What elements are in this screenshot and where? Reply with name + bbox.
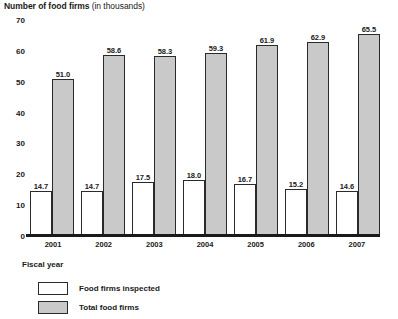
bar-value-label: 65.5 <box>362 25 377 34</box>
x-axis-line <box>26 234 380 237</box>
bar-inspected-2002: 14.7 <box>81 191 103 236</box>
x-axis-label-2001: 2001 <box>30 240 76 252</box>
bar-inspected-2006: 15.2 <box>285 189 307 236</box>
bar-value-label: 18.0 <box>187 171 202 180</box>
x-axis-label-2005: 2005 <box>233 240 279 252</box>
x-axis-label-2002: 2002 <box>81 240 127 252</box>
legend-swatch-total <box>38 301 68 314</box>
bar-value-label: 14.6 <box>340 182 355 191</box>
bar-value-label: 58.6 <box>107 46 122 55</box>
y-axis-tick-60: 60 <box>16 46 25 55</box>
bar-total-2004: 59.3 <box>205 53 227 236</box>
bar-chart: Number of food firms (in thousands) 7060… <box>0 0 398 319</box>
bar-group-2005: 16.761.9 <box>234 20 278 236</box>
x-axis-label-2004: 2004 <box>182 240 228 252</box>
bar-value-label: 14.7 <box>34 182 49 191</box>
bar-group-2001: 14.751.0 <box>30 20 74 236</box>
bar-total-2003: 58.3 <box>154 56 176 236</box>
bar-inspected-2007: 14.6 <box>336 191 358 236</box>
bar-inspected-2005: 16.7 <box>234 184 256 236</box>
legend-label: Total food firms <box>79 303 139 312</box>
legend-item-total: Total food firms <box>38 298 160 317</box>
y-axis-tick-10: 10 <box>16 201 25 210</box>
bar-value-label: 14.7 <box>85 182 100 191</box>
legend-label: Food firms inspected <box>79 284 160 293</box>
chart-title: Number of food firms (in thousands) <box>4 1 145 11</box>
bar-value-label: 61.9 <box>260 36 275 45</box>
chart-legend: Food firms inspectedTotal food firms <box>38 279 160 317</box>
chart-title-unit: (in thousands) <box>92 1 145 11</box>
bar-value-label: 58.3 <box>158 47 173 56</box>
legend-swatch-inspected <box>38 282 68 295</box>
bar-value-label: 16.7 <box>238 175 253 184</box>
bar-inspected-2003: 17.5 <box>132 182 154 236</box>
bar-inspected-2001: 14.7 <box>30 191 52 236</box>
bar-value-label: 51.0 <box>56 70 71 79</box>
bar-group-2004: 18.059.3 <box>183 20 227 236</box>
bar-groups: 14.751.014.758.617.558.318.059.316.761.9… <box>30 20 380 236</box>
y-axis-tick-20: 20 <box>16 170 25 179</box>
bar-value-label: 15.2 <box>289 180 304 189</box>
y-axis-tick-40: 40 <box>16 108 25 117</box>
bar-group-2006: 15.262.9 <box>285 20 329 236</box>
bar-group-2003: 17.558.3 <box>132 20 176 236</box>
bar-value-label: 59.3 <box>209 44 224 53</box>
legend-item-inspected: Food firms inspected <box>38 279 160 298</box>
bar-total-2006: 62.9 <box>307 42 329 236</box>
bar-total-2005: 61.9 <box>256 45 278 236</box>
x-axis-label-2003: 2003 <box>131 240 177 252</box>
bar-value-label: 17.5 <box>136 173 151 182</box>
bar-group-2007: 14.665.5 <box>336 20 380 236</box>
bar-total-2001: 51.0 <box>52 79 74 236</box>
plot-area: 706050403020100 14.751.014.758.617.558.3… <box>30 20 380 236</box>
x-axis-label-2006: 2006 <box>283 240 329 252</box>
chart-title-main: Number of food firms <box>4 1 89 11</box>
bar-value-label: 62.9 <box>311 33 326 42</box>
x-axis-title: Fiscal year <box>22 260 63 269</box>
y-axis-tick-70: 70 <box>16 16 25 25</box>
x-axis-labels: 2001200220032004200520062007 <box>30 240 380 252</box>
y-axis-tick-0: 0 <box>21 232 25 241</box>
bar-inspected-2004: 18.0 <box>183 180 205 236</box>
y-axis-tick-50: 50 <box>16 77 25 86</box>
bar-group-2002: 14.758.6 <box>81 20 125 236</box>
bar-total-2002: 58.6 <box>103 55 125 236</box>
bar-total-2007: 65.5 <box>358 34 380 236</box>
y-axis-tick-30: 30 <box>16 139 25 148</box>
x-axis-label-2007: 2007 <box>334 240 380 252</box>
